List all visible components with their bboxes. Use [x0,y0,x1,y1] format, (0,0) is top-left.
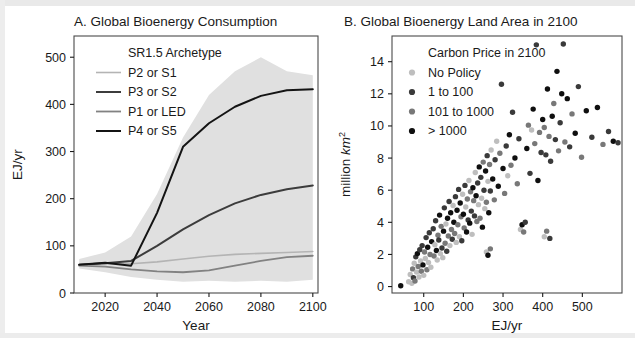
panel-b-scatter-point [466,178,471,183]
panel-b-scatter-point [524,146,529,151]
panel-a-legend-label-0: P2 or S1 [128,66,177,80]
panel-b-title: B. Global Bioenergy Land Area in 2100 [344,14,577,29]
panel-b-scatter-point [482,206,487,211]
panel-a-title: A. Global Bioenergy Consumption [74,14,277,29]
panel-b-scatter-point [516,136,521,141]
panel-b-ytick-label: 12 [370,87,384,101]
panel-b-scatter-point [529,127,534,132]
panel-b-legend-title: Carbon Price in 2100 [428,46,545,60]
panel-b-scatter-point [488,246,493,251]
panel-b-scatter-point [421,273,426,278]
panel-b-scatter-point [488,188,493,193]
panel-b-scatter-point [454,240,459,245]
panel-b-scatter-point [530,106,535,111]
panel-b-scatter-point [497,151,502,156]
panel-b-legend-dot-0 [409,69,415,75]
panel-b-scatter-point [437,212,442,217]
panel-a-chart: 010020030040050020202040206020802100Year… [0,0,330,338]
yaxis-title-exponent: 2 [337,132,347,137]
panel-b-scatter-point [478,175,483,180]
panel-b-scatter-point [502,191,507,196]
panel-a-ytick-label: 0 [59,287,66,301]
panel-b-scatter-point [446,199,451,204]
panel-b-scatter-point [492,157,497,162]
panel-b-scatter-point [562,139,567,144]
panel-b-scatter-point [527,171,532,176]
panel-b-ytick-label: 14 [370,55,384,69]
panel-b-plot-frame [392,36,622,293]
panel-a-xtick-label: 2060 [195,300,223,314]
panel-b-scatter-point [435,232,440,237]
panel-b-scatter-point [579,155,584,160]
panel-b-scatter-point [554,69,559,74]
panel-b-yaxis-title: million km2 [337,132,353,197]
panel-b-scatter-point [484,200,489,205]
panel-a-xtick-label: 2100 [299,300,327,314]
panel-b-scatter-point [448,210,453,215]
panel-b-scatter-point [472,213,477,218]
panel-b-scatter-point [414,269,419,274]
panel-b-scatter-point [545,86,550,91]
panel-b-scatter-point [532,141,537,146]
panel-b-scatter-point [477,164,482,169]
panel-b-scatter-point [553,137,558,142]
panel-b-scatter-point [469,232,474,237]
panel-a-yaxis-title: EJ/yr [10,149,25,180]
panel-b-scatter-point [485,253,490,258]
panel-b-scatter-point [611,139,616,144]
panel-b-scatter-point [460,192,465,197]
panel-b-scatter-point [443,221,448,226]
panel-b-scatter-point [458,200,463,205]
panel-b-scatter-point [565,96,570,101]
panel-b-scatter-point [453,194,458,199]
panel-b-scatter-point [490,176,495,181]
panel-b-scatter-point [508,163,513,168]
panel-b-scatter-point [488,147,493,152]
panel-a-xtick-label: 2040 [143,300,171,314]
panel-b-scatter-point [439,245,444,250]
panel-a-ytick-label: 100 [45,239,66,253]
panel-b-scatter-point [487,162,492,167]
panel-b-ytick-label: 10 [370,119,384,133]
panel-b-scatter-point [537,130,542,135]
panel-b-scatter-point [452,231,457,236]
panel-b-scatter-point [584,108,589,113]
panel-b-scatter-point [423,235,428,240]
panel-b-scatter-point [526,122,531,127]
panel-b-scatter-point [420,262,425,267]
panel-b-scatter-point [543,152,548,157]
yaxis-title-km: km [338,137,353,155]
panel-b-scatter-point [419,243,424,248]
panel-b-scatter-point [475,180,480,185]
panel-b-bioenergy-land-area: B. Global Bioenergy Land Area in 2100 02… [330,0,635,338]
panel-b-scatter-point [398,283,403,288]
panel-b-xtick-label: 400 [532,300,553,314]
panel-a-xaxis-title: Year [182,318,210,333]
panel-b-scatter-point [535,178,540,183]
panel-b-scatter-point [544,228,549,233]
panel-b-scatter-point [454,208,459,213]
panel-b-scatter-point [464,229,469,234]
panel-b-xtick-label: 300 [493,300,514,314]
panel-b-scatter-point [499,81,504,86]
panel-b-scatter-point [496,183,501,188]
panel-b-scatter-point [485,179,490,184]
panel-b-scatter-point [556,148,561,153]
panel-b-scatter-point [425,245,430,250]
panel-b-scatter-point [467,220,472,225]
panel-b-scatter-point [551,101,556,106]
panel-b-scatter-point [569,111,574,116]
panel-b-scatter-point [542,125,547,130]
panel-b-scatter-point [606,129,611,134]
panel-b-scatter-point [462,183,467,188]
panel-b-scatter-point [484,153,489,158]
panel-b-scatter-point [561,41,566,46]
figure-root: A. Global Bioenergy Consumption 01002003… [0,0,635,338]
panel-b-scatter-point [431,226,436,231]
panel-b-legend-label-2: 101 to 1000 [428,105,494,119]
panel-b-scatter-point [459,238,464,243]
panel-b-scatter-point [442,205,447,210]
panel-b-scatter-point [436,237,441,242]
panel-b-scatter-point [427,230,432,235]
panel-b-legend-label-1: 1 to 100 [428,85,473,99]
